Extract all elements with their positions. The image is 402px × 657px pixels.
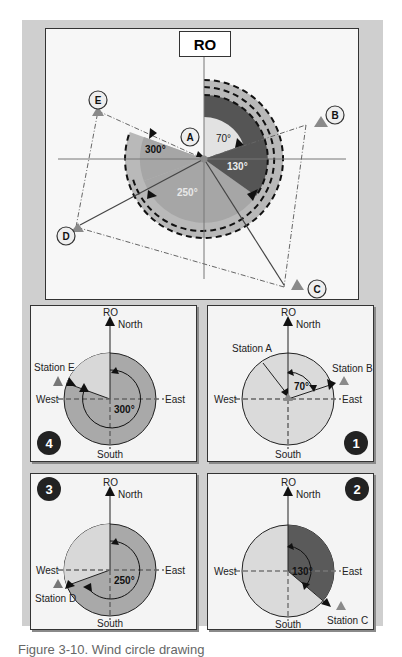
svg-text:70°: 70° (294, 381, 309, 392)
panel-3: 3 RO North Station D West East South 250… (30, 473, 197, 630)
svg-text:250°: 250° (114, 575, 135, 586)
angle-70: 70° (216, 133, 231, 144)
panel-1: 1 RO North Station A Station B West East… (207, 305, 374, 462)
angle-300: 300° (145, 144, 166, 155)
station-d-badge: D (57, 227, 75, 245)
station-b-badge: B (326, 106, 344, 124)
svg-text:South: South (275, 619, 301, 630)
svg-text:Station B: Station B (332, 363, 373, 374)
svg-text:North: North (118, 319, 142, 330)
svg-text:B: B (331, 110, 338, 121)
svg-text:South: South (275, 449, 301, 460)
svg-text:East: East (342, 394, 362, 405)
svg-text:RO: RO (281, 307, 296, 318)
svg-text:South: South (97, 618, 123, 629)
svg-text:North: North (296, 489, 320, 500)
main-diagram-canvas: E B A D C 70° 130° 250° 300° (46, 29, 360, 301)
svg-text:2: 2 (353, 482, 360, 497)
svg-text:South: South (97, 449, 123, 460)
ro-title-box: RO (179, 31, 231, 57)
svg-text:North: North (118, 489, 142, 500)
panel-2: 2 RO North Station C West East South 130… (207, 473, 374, 630)
figure-caption: Figure 3-10. Wind circle drawing (18, 642, 204, 657)
svg-text:West: West (214, 566, 237, 577)
svg-text:4: 4 (45, 436, 53, 451)
svg-text:West: West (214, 394, 237, 405)
svg-text:RO: RO (103, 477, 118, 488)
svg-text:East: East (165, 565, 185, 576)
svg-text:East: East (165, 394, 185, 405)
station-e-badge: E (89, 91, 107, 109)
svg-text:D: D (62, 231, 69, 242)
svg-text:RO: RO (103, 307, 118, 318)
svg-text:3: 3 (45, 482, 52, 497)
svg-text:Station E: Station E (34, 362, 75, 373)
svg-text:C: C (313, 284, 320, 295)
angle-130: 130° (227, 161, 248, 172)
svg-text:East: East (342, 566, 362, 577)
svg-text:West: West (36, 565, 59, 576)
panel-4: 4 RO North Station E West East South 300… (30, 305, 197, 462)
svg-text:Station A: Station A (232, 343, 272, 354)
station-c-badge: C (308, 280, 326, 298)
svg-text:1: 1 (352, 436, 359, 451)
svg-text:A: A (186, 132, 193, 143)
svg-text:E: E (95, 95, 102, 106)
svg-text:RO: RO (281, 477, 296, 488)
main-diagram: E B A D C 70° 130° 250° 300° RO (45, 28, 359, 300)
ro-title: RO (194, 36, 217, 53)
svg-text:Station C: Station C (327, 615, 368, 626)
svg-text:Station D: Station D (35, 593, 76, 604)
svg-text:300°: 300° (114, 404, 135, 415)
svg-text:West: West (36, 394, 59, 405)
svg-text:130°: 130° (292, 566, 313, 577)
station-a-badge: A (181, 128, 199, 146)
angle-250: 250° (177, 187, 198, 198)
svg-text:North: North (296, 319, 320, 330)
